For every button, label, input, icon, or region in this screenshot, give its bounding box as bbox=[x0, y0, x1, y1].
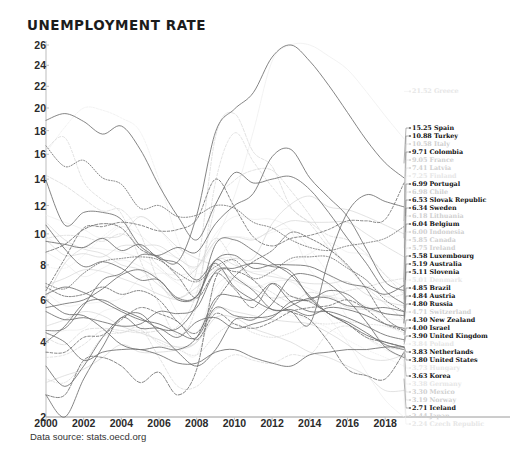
series-label-japan: 2.44 Japan bbox=[412, 412, 450, 420]
series-label-united-states: 3.80 United States bbox=[412, 356, 478, 364]
series-label-sweden: 6.34 Sweden bbox=[412, 204, 457, 212]
label-marker-dot bbox=[409, 127, 411, 129]
series-label-russia: 4.80 Russia bbox=[412, 300, 453, 308]
series-line-greece bbox=[46, 43, 404, 269]
series-label-switzerland: 4.71 Switzerland bbox=[412, 308, 471, 316]
series-label-italy: 10.58 Italy bbox=[412, 140, 450, 148]
label-marker-dot bbox=[409, 159, 411, 161]
label-marker-dot bbox=[409, 407, 411, 409]
y-tick-24: 24 bbox=[34, 59, 46, 71]
label-marker-dot bbox=[409, 383, 411, 385]
series-label-denmark: 5.01 Denmark bbox=[412, 276, 462, 284]
series-label-korea: 3.63 Korea bbox=[412, 372, 451, 380]
series-label-belgium: 6.04 Belgium bbox=[412, 220, 459, 228]
series-label-israel: 4.00 Israel bbox=[412, 324, 450, 332]
label-marker-dot bbox=[409, 271, 411, 273]
label-marker-dot bbox=[409, 375, 411, 377]
series-label-latvia: 7.41 Latvia bbox=[412, 164, 451, 172]
series-line-france bbox=[46, 221, 404, 268]
label-marker-dot bbox=[409, 303, 411, 305]
label-marker-dot bbox=[409, 391, 411, 393]
label-marker-dot bbox=[409, 335, 411, 337]
label-marker-dot bbox=[409, 207, 411, 209]
label-marker-dot bbox=[409, 191, 411, 193]
y-tick-4: 4 bbox=[40, 336, 46, 348]
label-marker-dot bbox=[409, 343, 411, 345]
y-tick-16: 16 bbox=[34, 148, 46, 160]
x-tick-2004: 2004 bbox=[110, 417, 133, 429]
series-label-norway: 3.19 Norway bbox=[412, 396, 456, 404]
label-marker-dot bbox=[409, 135, 411, 137]
series-label-chile: 6.98 Chile bbox=[412, 188, 448, 196]
label-marker-dot bbox=[409, 359, 411, 361]
label-marker-dot bbox=[409, 367, 411, 369]
series-label-colombia: 9.71 Colombia bbox=[412, 148, 463, 156]
x-tick-2018: 2018 bbox=[373, 417, 396, 429]
leader-line bbox=[404, 128, 411, 163]
label-marker-dot bbox=[409, 287, 411, 289]
x-tick-2014: 2014 bbox=[298, 417, 321, 429]
label-marker-dot bbox=[409, 151, 411, 153]
label-marker-dot bbox=[409, 279, 411, 281]
x-tick-2012: 2012 bbox=[260, 417, 283, 429]
series-label-hungary: 3.73 Hungary bbox=[412, 364, 460, 372]
series-label-brazil: 4.85 Brazil bbox=[412, 284, 451, 292]
label-marker-dot bbox=[409, 255, 411, 257]
series-label-slovenia: 5.11 Slovenia bbox=[412, 268, 459, 276]
label-marker-dot bbox=[409, 319, 411, 321]
series-line-ireland bbox=[46, 168, 404, 344]
y-tick-18: 18 bbox=[34, 125, 46, 137]
x-tick-2008: 2008 bbox=[185, 417, 208, 429]
label-marker-dot bbox=[409, 423, 411, 425]
series-line-czech-republic bbox=[46, 252, 404, 417]
series-label-austria: 4.84 Austria bbox=[412, 292, 455, 300]
series-label-indonesia: 6.00 Indonesia bbox=[412, 228, 464, 236]
series-label-turkey: 10.88 Turkey bbox=[412, 132, 458, 140]
y-tick-12: 12 bbox=[34, 200, 46, 212]
series-label-new-zealand: 4.30 New Zealand bbox=[412, 316, 475, 324]
x-tick-2006: 2006 bbox=[147, 417, 170, 429]
series-label-canada: 5.85 Canada bbox=[412, 236, 456, 244]
series-label-portugal: 6.99 Portugal bbox=[412, 180, 460, 188]
series-label-iceland: 2.71 Iceland bbox=[412, 404, 456, 412]
series-line-russia bbox=[46, 225, 404, 328]
x-tick-2002: 2002 bbox=[72, 417, 95, 429]
series-label-poland: 3.84 Poland bbox=[412, 340, 454, 348]
series-label-spain: 15.25 Spain bbox=[412, 124, 454, 132]
series-label-germany: 3.38 Germany bbox=[412, 380, 461, 388]
y-axis-ticks: 2468101214161820222426 bbox=[18, 0, 46, 467]
series-label-netherlands: 3.83 Netherlands bbox=[412, 348, 473, 356]
series-label-united-kingdom: 3.90 United Kingdom bbox=[412, 332, 488, 340]
series-label-australia: 5.19 Australia bbox=[412, 260, 462, 268]
label-marker-dot bbox=[409, 247, 411, 249]
label-marker-dot bbox=[409, 143, 411, 145]
series-line-norway bbox=[46, 326, 404, 389]
y-tick-22: 22 bbox=[34, 80, 46, 92]
series-label-slovak-republic: 6.53 Slovak Republic bbox=[412, 196, 486, 204]
series-line-korea bbox=[46, 333, 404, 367]
y-tick-26: 26 bbox=[34, 39, 46, 51]
series-label-czech-republic: 2.24 Czech Republic bbox=[412, 420, 484, 428]
label-marker-dot bbox=[409, 239, 411, 241]
series-label-ireland: 5.75 Ireland bbox=[412, 244, 455, 252]
y-tick-14: 14 bbox=[34, 173, 46, 185]
series-label-finland: 7.25 Finland bbox=[412, 172, 456, 180]
label-marker-dot bbox=[409, 327, 411, 329]
label-marker-dot bbox=[409, 311, 411, 313]
label-marker-dot bbox=[409, 263, 411, 265]
y-tick-10: 10 bbox=[34, 228, 46, 240]
label-marker-dot bbox=[409, 175, 411, 177]
y-tick-20: 20 bbox=[34, 102, 46, 114]
x-tick-2010: 2010 bbox=[223, 417, 246, 429]
label-marker-dot bbox=[409, 167, 411, 169]
series-label-luxembourg: 5.58 Luxembourg bbox=[412, 252, 474, 260]
label-marker-dot bbox=[409, 399, 411, 401]
x-tick-2016: 2016 bbox=[336, 417, 359, 429]
label-marker-dot bbox=[409, 415, 411, 417]
series-label-france: 9.05 France bbox=[412, 156, 454, 164]
y-tick-6: 6 bbox=[40, 294, 46, 306]
label-marker-dot bbox=[409, 223, 411, 225]
series-label-lithuania: 6.18 Lithuania bbox=[412, 212, 464, 220]
series-line-spain bbox=[46, 45, 404, 264]
label-marker-dot bbox=[409, 90, 411, 92]
